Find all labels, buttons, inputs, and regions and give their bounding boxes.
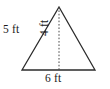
label-base-length: 6 ft bbox=[45, 73, 61, 85]
label-height-length: 4 ft bbox=[39, 20, 51, 36]
label-left-side-length: 5 ft bbox=[3, 24, 19, 36]
triangle-figure: 5 ft 4 ft 6 ft bbox=[0, 0, 110, 89]
